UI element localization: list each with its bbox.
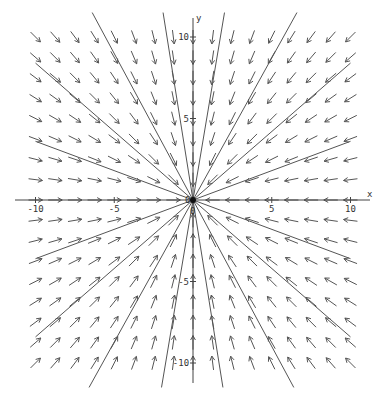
vector-arrow: [150, 275, 156, 288]
vector-arrow: [147, 176, 160, 182]
vector-arrow: [246, 155, 258, 163]
vector-arrow: [30, 298, 42, 305]
vector-arrow: [50, 52, 60, 62]
vector-arrow: [89, 114, 100, 123]
vector-arrow: [49, 298, 60, 306]
vector-arrow: [267, 114, 277, 124]
vector-arrow: [171, 30, 176, 44]
vector-arrow: [48, 218, 62, 223]
vector-arrow: [287, 72, 296, 83]
vector-arrow: [128, 155, 140, 163]
vector-arrow: [107, 178, 121, 183]
vector-arrow: [344, 158, 358, 163]
vector-arrow: [248, 113, 256, 124]
vector-arrow: [171, 71, 176, 85]
vector-arrow: [210, 112, 215, 126]
vector-arrow: [129, 256, 139, 266]
vector-arrow: [345, 53, 356, 62]
vector-arrow: [48, 238, 61, 243]
vector-arrow: [249, 316, 255, 329]
vector-arrow: [71, 357, 79, 368]
vector-arrow: [210, 356, 215, 370]
vector-arrow: [48, 157, 61, 162]
vector-arrow: [247, 134, 257, 144]
vector-arrow: [90, 52, 98, 63]
vector-arrow: [69, 258, 82, 264]
vector-arrow: [249, 336, 255, 349]
y-tick-label: -5: [178, 277, 189, 287]
vector-arrow: [324, 157, 337, 162]
vector-arrow: [287, 317, 296, 328]
vector-arrow: [147, 217, 160, 223]
vector-arrow: [325, 115, 337, 122]
vector-arrow: [247, 256, 257, 266]
vector-arrow: [171, 50, 176, 64]
vector-arrow: [110, 72, 118, 84]
vector-arrow: [109, 257, 120, 265]
vector-arrow: [210, 254, 215, 267]
vector-arrow: [90, 317, 99, 328]
vector-arrow: [229, 295, 235, 308]
vector-arrow: [265, 156, 278, 162]
vector-arrow: [50, 318, 61, 327]
vector-arrow: [288, 31, 295, 43]
vector-arrow: [29, 158, 43, 163]
vector-arrow: [70, 317, 80, 327]
vector-arrow: [267, 93, 276, 104]
vector-arrow: [50, 73, 61, 82]
vector-arrow: [306, 297, 317, 306]
vector-arrow: [324, 136, 337, 142]
vector-arrow: [130, 113, 138, 124]
vector-arrow: [131, 336, 137, 349]
vector-arrow: [268, 72, 276, 84]
vector-arrow: [30, 94, 42, 101]
x-tick-label: -10: [27, 204, 43, 214]
vector-arrow: [90, 297, 100, 307]
vector-arrow: [306, 317, 316, 327]
vector-arrow: [210, 30, 215, 44]
vector-arrow: [70, 52, 79, 63]
vector-arrow: [152, 336, 157, 349]
vector-arrow: [325, 278, 337, 285]
vector-arrow: [305, 115, 317, 123]
vector-arrow: [265, 237, 278, 243]
y-tick-label: 10: [178, 32, 189, 42]
vector-arrow: [29, 136, 42, 142]
vector-arrow: [268, 316, 276, 328]
vector-arrow: [246, 237, 258, 245]
vector-arrow: [226, 217, 239, 223]
vector-arrow: [265, 217, 279, 222]
vector-arrow: [51, 32, 60, 43]
vector-arrow: [51, 358, 60, 369]
vector-arrow: [307, 337, 316, 348]
vector-arrow: [69, 94, 80, 103]
vector-arrow: [286, 297, 296, 307]
vector-arrow: [89, 258, 101, 265]
vector-arrow: [226, 176, 239, 182]
vector-arrow: [229, 356, 234, 370]
y-tick-label: 5: [184, 114, 189, 124]
vector-arrow: [88, 218, 102, 223]
vector-arrow: [285, 218, 299, 223]
vector-arrow: [210, 132, 215, 145]
vector-arrow: [210, 50, 215, 64]
vector-arrow: [107, 217, 121, 222]
y-tick-label: -10: [173, 358, 189, 368]
vector-arrow: [69, 278, 81, 286]
vector-arrow: [171, 336, 176, 350]
vector-arrow: [68, 178, 82, 183]
vector-arrow: [90, 93, 100, 103]
vector-arrow: [30, 318, 41, 326]
vector-arrow: [170, 234, 176, 247]
vector-arrow: [108, 237, 121, 243]
vector-arrow: [131, 51, 137, 64]
vector-arrow: [91, 31, 98, 43]
vector-arrow: [325, 73, 336, 82]
vector-arrow: [307, 31, 315, 42]
vector-arrow: [286, 114, 297, 123]
vector-arrow: [229, 71, 234, 84]
vector-arrow: [131, 30, 137, 43]
vector-arrow: [69, 297, 80, 306]
vector-arrow: [324, 258, 337, 264]
vector-arrow: [324, 178, 338, 183]
